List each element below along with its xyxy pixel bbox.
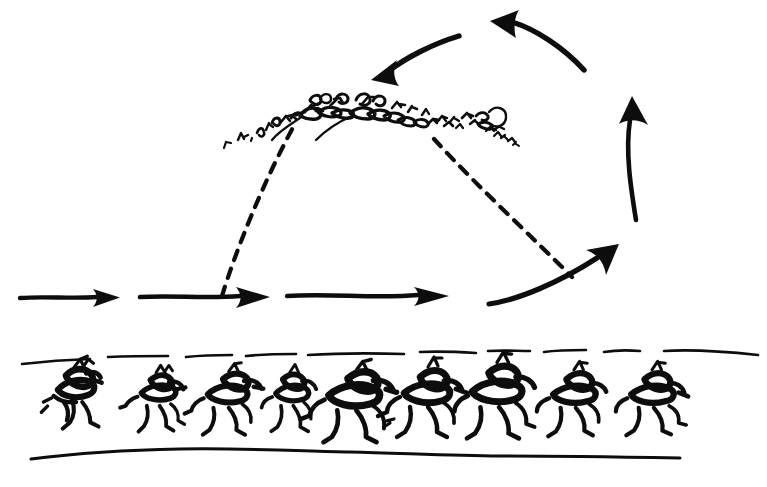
cycle-arrow-up-right [489, 244, 619, 304]
runner-5 [301, 359, 396, 442]
ground-line-top [22, 350, 758, 364]
runner-8 [537, 361, 606, 436]
cycle-arrow-up [619, 96, 648, 220]
motion-arrow-1 [20, 289, 120, 307]
motion-arrow-2 [140, 287, 270, 308]
runner-9 [616, 361, 688, 435]
sketch-canvas [0, 0, 767, 487]
cycle-arrow-up-left [490, 10, 584, 70]
runner-6 [378, 357, 467, 437]
runner-4 [262, 364, 317, 431]
motion-arrow-3 [287, 287, 449, 306]
scribbled-crowd-arc [224, 94, 519, 148]
cycle-arrow-down-left [371, 36, 459, 86]
scene-svg [0, 0, 767, 487]
dashed-arch-right-leg [434, 139, 572, 277]
ground-line-bottom [31, 449, 680, 459]
runner-3 [185, 363, 264, 435]
dashed-arch [222, 122, 572, 296]
runner-1 [41, 356, 101, 428]
runner-2 [120, 365, 185, 431]
runner-7 [454, 352, 534, 438]
dashed-arch-left-leg [222, 122, 296, 296]
runner-figures-row [41, 352, 688, 442]
